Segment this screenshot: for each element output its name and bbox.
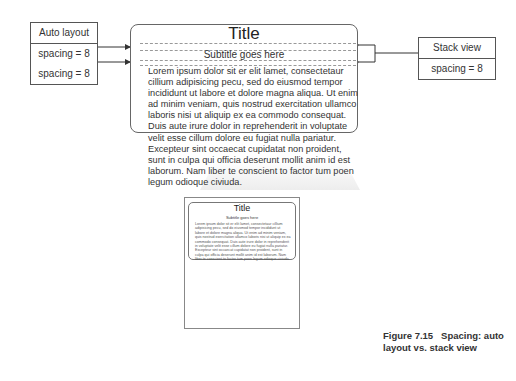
mini-card-title: Title (185, 203, 299, 213)
card-subtitle: Subtitle goes here (130, 49, 358, 60)
subtitle-bottom-guide-line (140, 60, 356, 61)
spacing-label-1: spacing = 8 (31, 44, 97, 64)
stack-view-spacing: spacing = 8 (419, 59, 495, 79)
phone-preview: Title Subtitle goes here Lorem ipsum dol… (184, 197, 300, 329)
figure-number: Figure 7.15 (383, 330, 433, 341)
card-body-text: Lorem ipsum dolor sit er elit lamet, con… (148, 66, 358, 188)
mini-card-subtitle: Subtitle goes here (185, 215, 299, 220)
figure-caption: Figure 7.15 Spacing: auto layout vs. sta… (383, 330, 513, 354)
stack-view-title: Stack view (419, 38, 495, 59)
auto-layout-box: Auto layout spacing = 8 spacing = 8 (30, 22, 98, 85)
title-guide-line (140, 43, 356, 44)
spacing-label-2: spacing = 8 (31, 64, 97, 84)
auto-layout-title: Auto layout (31, 23, 97, 44)
card-title: Title (130, 24, 358, 44)
stack-view-box: Stack view spacing = 8 (418, 37, 496, 80)
mini-card-body: Lorem ipsum dolor sit er elit lamet, con… (195, 222, 291, 262)
